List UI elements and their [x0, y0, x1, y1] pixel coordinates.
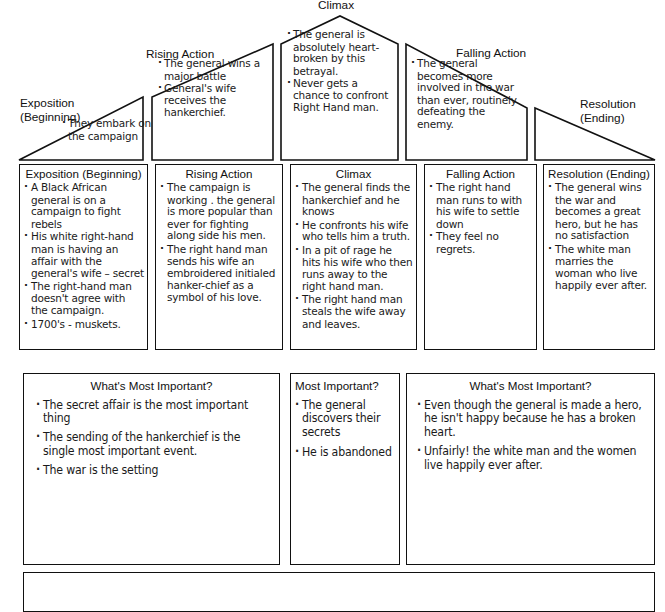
detail-cell-resolution: Resolution (Ending) The general wins the… [543, 164, 655, 350]
arc-note-item: General's wife receives the hankerchief. [158, 83, 276, 119]
detail-cell-body: The general wins the war and becomes a g… [544, 182, 654, 292]
detail-item: The white man marries the woman who live… [548, 243, 651, 291]
importance-box-title: Most Important? [291, 379, 399, 392]
importance-box-title: What's Most Important? [24, 379, 279, 392]
detail-cell-falling-action: Falling Action The right hand man runs t… [424, 164, 537, 350]
arc-note-item: The general wins a major battle [158, 58, 276, 82]
detail-item: They feel no regrets. [429, 231, 533, 255]
detail-cell-rising-action: Rising Action The campaign is working . … [155, 164, 283, 350]
detail-cell-body: The general finds the hankerchief and he… [291, 182, 416, 330]
importance-item: He is abandoned [295, 446, 396, 460]
detail-cell-title: Resolution (Ending) [544, 167, 654, 180]
detail-cell-title: Falling Action [425, 167, 536, 180]
detail-item: His white right-hand man is having an af… [24, 231, 144, 279]
importance-item: The secret affair is the most important … [36, 398, 271, 425]
detail-item: The right hand man runs to with his wife… [429, 182, 533, 230]
arc-note-falling-action: The general becomes more involved in the… [411, 58, 517, 131]
detail-cell-body: The right hand man runs to with his wife… [425, 182, 536, 255]
arc-note-climax: The general is absolutely heart-broken b… [287, 29, 395, 114]
detail-cell-body: The campaign is working . the general is… [156, 182, 282, 304]
arc-note-item: They embark on the campaign [62, 118, 158, 142]
arc-note-rising-action: The general wins a major battle General'… [158, 58, 276, 119]
importance-item: Even though the general is made a hero, … [417, 398, 648, 439]
importance-box-middle: Most Important? The general discovers th… [290, 373, 400, 565]
arc-note-exposition: They embark on the campaign [62, 118, 158, 143]
detail-item: The general finds the hankerchief and he… [295, 182, 413, 218]
detail-cell-exposition: Exposition (Beginning) A Black African g… [19, 164, 148, 350]
detail-item: A Black African general is on a campaign… [24, 182, 144, 230]
importance-item: The sending of the hankerchief is the si… [36, 431, 271, 458]
importance-item: The war is the setting [36, 463, 271, 477]
detail-item: In a pit of rage he hits his wife who th… [295, 244, 413, 292]
importance-box-title: What's Most Important? [407, 379, 654, 392]
detail-item: The general wins the war and becomes a g… [548, 182, 651, 242]
stage-label-climax: Climax [318, 0, 354, 12]
detail-cell-body: A Black African general is on a campaign… [20, 182, 147, 330]
detail-item: 1700's - muskets. [24, 318, 144, 330]
importance-item: The general discovers their secrets [295, 398, 396, 439]
detail-item: The right hand man steals the wife away … [295, 294, 413, 330]
bottom-strip-box [23, 572, 655, 612]
importance-item: Unfairly! the white man and the women li… [417, 445, 648, 472]
importance-box-right: What's Most Important? Even though the g… [406, 373, 655, 565]
arc-note-item: The general is absolutely heart-broken b… [287, 29, 395, 77]
detail-cell-title: Climax [291, 167, 416, 180]
importance-box-body: The general discovers their secrets He i… [291, 394, 399, 459]
importance-box-body: Even though the general is made a hero, … [407, 394, 654, 472]
detail-item: The right hand man sends his wife an emb… [160, 243, 279, 303]
detail-cell-title: Rising Action [156, 167, 282, 180]
arc-note-item: Never gets a chance to confront Right Ha… [287, 78, 395, 114]
arc-note-item: The general becomes more involved in the… [411, 58, 517, 130]
detail-item: The campaign is working . the general is… [160, 182, 279, 242]
detail-cell-climax: Climax The general finds the hankerchief… [290, 164, 417, 350]
detail-item: He confronts his wife who tells him a tr… [295, 219, 413, 243]
detail-cell-title: Exposition (Beginning) [20, 167, 147, 180]
bottom-strip-body [24, 573, 654, 575]
importance-box-left: What's Most Important? The secret affair… [23, 373, 280, 565]
importance-box-body: The secret affair is the most important … [24, 394, 279, 477]
detail-item: The right-hand man doesn't agree with th… [24, 281, 144, 317]
stage-label-resolution: Resolution (Ending) [580, 97, 636, 125]
